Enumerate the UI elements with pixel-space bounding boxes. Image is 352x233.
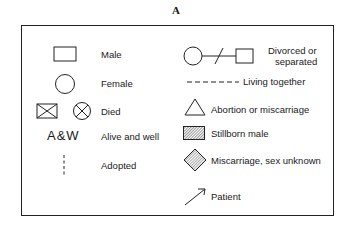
label-alive-and-well: Alive and well bbox=[101, 131, 159, 142]
female-circle-icon bbox=[54, 73, 76, 95]
label-adopted: Adopted bbox=[101, 160, 136, 171]
label-died: Died bbox=[101, 106, 121, 117]
died-male-icon bbox=[36, 103, 58, 119]
label-divorced-line2: separated bbox=[275, 56, 317, 67]
male-square-icon bbox=[53, 46, 77, 62]
label-abortion: Abortion or miscarriage bbox=[211, 104, 309, 115]
label-miscarriage-unknown: Miscarriage, sex unknown bbox=[211, 155, 321, 166]
abortion-triangle-icon bbox=[184, 98, 206, 116]
divorced-symbol-icon bbox=[183, 45, 255, 67]
figure-title: A bbox=[0, 4, 352, 16]
adopted-dashed-line-icon bbox=[62, 155, 66, 177]
died-female-icon bbox=[72, 101, 92, 121]
label-stillborn-male: Stillborn male bbox=[211, 128, 269, 139]
label-divorced-line1: Divorced or bbox=[268, 45, 317, 56]
patient-arrow-icon bbox=[184, 186, 208, 206]
miscarriage-diamond-icon bbox=[183, 148, 207, 172]
label-living-together: Living together bbox=[243, 76, 305, 87]
living-together-dashed-icon bbox=[187, 80, 239, 84]
label-patient: Patient bbox=[211, 191, 241, 202]
stillborn-male-icon bbox=[183, 126, 205, 140]
label-male: Male bbox=[101, 49, 122, 60]
alive-and-well-symbol: A&W bbox=[47, 129, 80, 143]
label-female: Female bbox=[101, 78, 133, 89]
